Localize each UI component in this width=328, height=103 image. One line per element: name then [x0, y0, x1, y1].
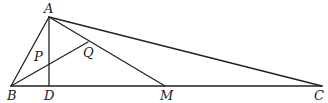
label-P: P [33, 49, 43, 64]
label-M: M [159, 88, 174, 103]
segment-AM [49, 17, 165, 86]
label-C: C [314, 88, 324, 103]
label-Q: Q [83, 45, 94, 60]
label-D: D [43, 88, 55, 103]
label-B: B [6, 88, 17, 103]
geometry-figure: A B D M C P Q [0, 0, 328, 103]
label-A: A [43, 1, 53, 16]
